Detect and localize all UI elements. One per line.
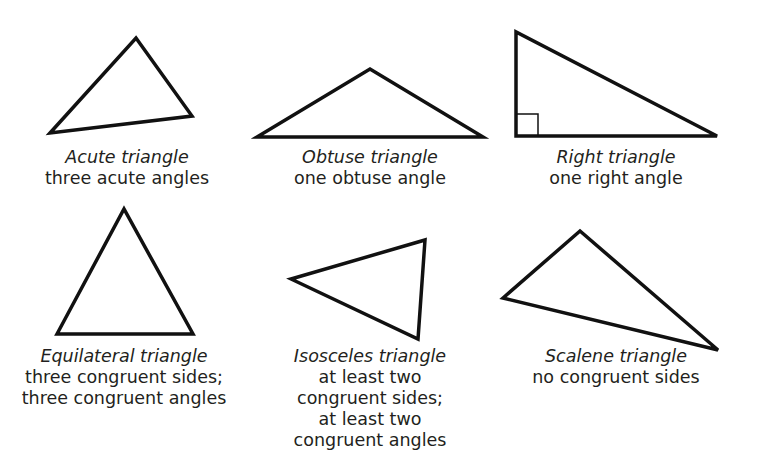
caption-title: Equilateral triangle	[22, 346, 227, 367]
caption-desc: one right angle	[549, 168, 682, 189]
obtuse-triangle-shape	[257, 69, 483, 137]
scalene-triangle-shape	[503, 231, 718, 350]
caption-desc: three congruent angles	[22, 388, 227, 409]
acute-triangle-shape	[50, 38, 192, 133]
acute-triangle-caption: Acute triangle three acute angles	[45, 147, 209, 189]
caption-desc: at least two	[294, 367, 447, 388]
isosceles-triangle-caption: Isosceles triangle at least two congruen…	[294, 346, 447, 451]
caption-title: Right triangle	[549, 147, 682, 168]
isosceles-triangle-shape	[291, 240, 425, 339]
caption-desc: congruent angles	[294, 430, 447, 451]
caption-desc: at least two	[294, 409, 447, 430]
caption-desc: congruent sides;	[294, 388, 447, 409]
obtuse-triangle-caption: Obtuse triangle one obtuse angle	[294, 147, 446, 189]
equilateral-triangle-shape	[57, 209, 193, 334]
scalene-triangle-caption: Scalene triangle no congruent sides	[532, 346, 699, 388]
equilateral-triangle-caption: Equilateral triangle three congruent sid…	[22, 346, 227, 409]
caption-desc: one obtuse angle	[294, 168, 446, 189]
caption-title: Isosceles triangle	[294, 346, 447, 367]
right-angle-marker	[516, 114, 538, 136]
caption-title: Obtuse triangle	[294, 147, 446, 168]
caption-desc: no congruent sides	[532, 367, 699, 388]
right-triangle-caption: Right triangle one right angle	[549, 147, 682, 189]
caption-title: Scalene triangle	[532, 346, 699, 367]
caption-title: Acute triangle	[45, 147, 209, 168]
caption-desc: three congruent sides;	[22, 367, 227, 388]
right-triangle-shape	[516, 32, 717, 136]
caption-desc: three acute angles	[45, 168, 209, 189]
